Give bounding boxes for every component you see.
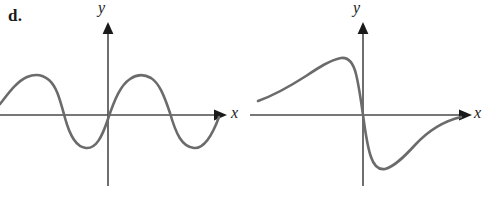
left-y-axis-label: y bbox=[98, 0, 105, 17]
right-y-axis-arrowhead bbox=[358, 22, 369, 34]
right-y-axis-label: y bbox=[353, 0, 360, 17]
left-graph-x-axis bbox=[0, 110, 227, 121]
left-graph bbox=[0, 0, 485, 200]
left-graph-y-axis bbox=[103, 22, 114, 186]
right-x-axis-label: x bbox=[474, 104, 481, 122]
left-x-axis-arrowhead bbox=[214, 110, 227, 121]
left-x-axis-label: x bbox=[231, 104, 238, 122]
right-graph-x-axis bbox=[250, 110, 472, 121]
right-graph-y-axis bbox=[358, 22, 369, 186]
left-sine-curve bbox=[0, 75, 219, 148]
left-y-axis-arrowhead bbox=[103, 22, 114, 34]
right-x-axis-arrowhead bbox=[459, 110, 472, 121]
figure-canvas: d. y x y x bbox=[0, 0, 485, 200]
right-odd-curve bbox=[258, 58, 461, 169]
